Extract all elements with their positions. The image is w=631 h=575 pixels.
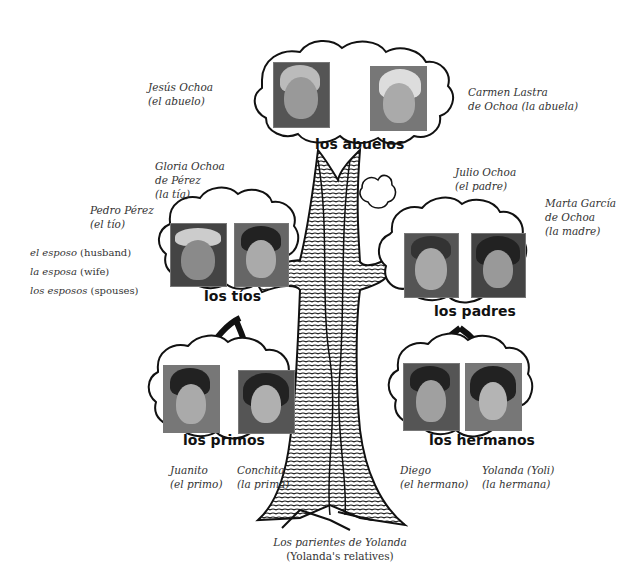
caption-marta-garcia: Marta García de Ochoa (la madre) [545,196,616,238]
photo-gloria-ochoa [234,223,289,287]
vocabulary-list: el esposo (husband) la esposa (wife) los… [30,243,138,300]
caption-carmen-lastra: Carmen Lastra de Ochoa (la abuela) [468,85,578,113]
photo-pedro-perez [170,223,227,287]
photo-carmen-lastra [370,66,427,131]
label-hermanos: los hermanos [429,432,535,448]
vocab-item: los esposos (spouses) [30,281,138,300]
photo-juanito [163,365,220,433]
caption-conchita: Conchita (la prima) [237,463,289,491]
photo-yolanda [465,363,522,431]
label-padres: los padres [434,303,516,319]
label-abuelos: los abuelos [315,136,404,152]
figure-title: Los parientes de Yolanda (Yolanda's rela… [260,535,420,563]
photo-marta-garcia [471,233,526,298]
caption-jesus-ochoa: Jesús Ochoa (el abuelo) [148,80,213,108]
caption-julio-ochoa: Julio Ochoa (el padre) [455,165,516,193]
vocab-item: el esposo (husband) [30,243,138,262]
label-primos: los primos [183,432,265,448]
vocab-item: la esposa (wife) [30,262,138,281]
caption-juanito: Juanito (el primo) [170,463,222,491]
caption-diego: Diego (el hermano) [400,463,468,491]
photo-diego [403,363,460,431]
photo-conchita [238,370,295,434]
caption-yolanda: Yolanda (Yoli) (la hermana) [482,463,554,491]
twig-cloud [360,175,395,208]
caption-gloria-ochoa: Gloria Ochoa de Pérez (la tía) [155,159,225,201]
label-tios: los tíos [204,288,261,304]
caption-pedro-perez: Pedro Pérez (el tío) [90,203,154,231]
photo-julio-ochoa [404,233,459,298]
photo-jesus-ochoa [273,62,330,128]
